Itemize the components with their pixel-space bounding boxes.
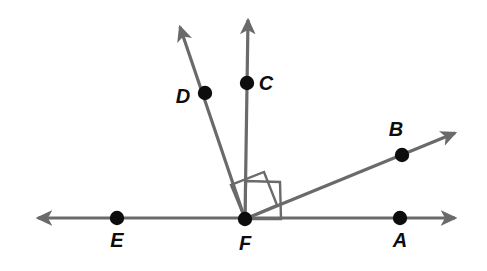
point-label-c: C — [259, 72, 274, 94]
point-dot-a — [393, 211, 407, 225]
point-dot-c — [240, 76, 254, 90]
point-dot-b — [395, 148, 409, 162]
ray-fb — [245, 133, 455, 219]
labels-group: A B C D E F — [110, 72, 407, 254]
point-label-e: E — [110, 229, 124, 251]
point-label-f: F — [239, 232, 252, 254]
point-dot-f — [238, 212, 252, 226]
point-label-b: B — [389, 118, 403, 140]
ray-fd — [180, 27, 245, 219]
geometry-diagram: A B C D E F — [0, 0, 487, 271]
point-label-d: D — [176, 85, 190, 107]
point-dot-d — [198, 86, 212, 100]
ray-fc — [245, 20, 248, 219]
points-group — [110, 76, 409, 226]
point-dot-e — [110, 211, 124, 225]
point-label-a: A — [392, 229, 407, 251]
geometry-canvas: A B C D E F — [0, 0, 487, 271]
